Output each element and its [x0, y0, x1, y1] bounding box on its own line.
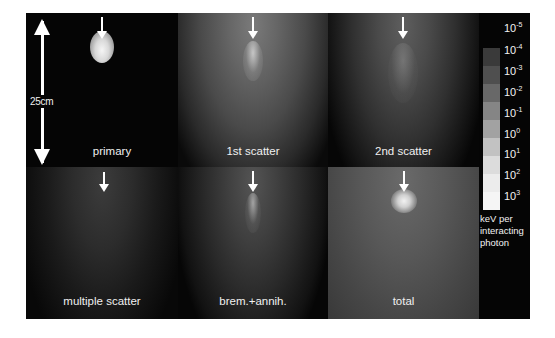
- tick-label: 10-3: [504, 64, 522, 77]
- beam-arrow-icon: [403, 171, 405, 190]
- panel-label: primary: [46, 145, 178, 157]
- panel-label: brem.+annih.: [178, 295, 328, 307]
- colorbar-segment: [483, 84, 500, 102]
- colorbar-segment: [483, 102, 500, 120]
- colorbar-segment: [483, 66, 500, 84]
- total-dose-spot: [391, 189, 417, 213]
- beam-arrow-icon: [402, 17, 404, 37]
- colorbar-segment: [483, 120, 500, 138]
- colorbar: [483, 48, 500, 210]
- panel-2nd-scatter: 2nd scatter: [328, 13, 479, 167]
- tick-label: 102: [504, 168, 520, 181]
- scale-label: 25cm: [30, 95, 53, 108]
- colorbar-segment: [483, 174, 500, 192]
- panel-label: 2nd scatter: [328, 145, 479, 157]
- colorbar-segment: [483, 138, 500, 156]
- scatter-hotspot: [243, 41, 263, 81]
- tick-label: 101: [504, 147, 520, 160]
- dose-distribution-figure: 25cm primary 1st scatter 2nd scatter mul…: [26, 13, 530, 319]
- tick-label: 10-2: [504, 85, 522, 98]
- panel-brem-annih: brem.+annih.: [178, 167, 328, 319]
- panel-primary: 25cm primary: [26, 13, 178, 167]
- scatter-hotspot: [245, 193, 261, 233]
- arrow-up-icon: [34, 19, 50, 35]
- tick-label: 10-4: [504, 43, 522, 56]
- beam-arrow-icon: [252, 171, 254, 190]
- tick-label: 100: [504, 127, 520, 140]
- tick-label: 10-1: [504, 106, 522, 119]
- panel-1st-scatter: 1st scatter: [178, 13, 328, 167]
- colorbar-segment: [483, 156, 500, 174]
- beam-arrow-icon: [101, 17, 103, 37]
- panel-label: 1st scatter: [178, 145, 328, 157]
- panel-label: multiple scatter: [26, 295, 178, 307]
- scatter-hotspot: [388, 43, 418, 103]
- colorbar-legend: 10-5 10-4 10-3 10-2 10-1 100 101 102 103…: [479, 13, 530, 319]
- tick-label: 103: [504, 189, 520, 202]
- beam-arrow-icon: [103, 172, 105, 190]
- scale-double-arrow-icon: [41, 21, 44, 163]
- beam-arrow-icon: [252, 17, 254, 37]
- panel-label: total: [328, 295, 479, 307]
- panel-total: total: [328, 167, 479, 319]
- colorbar-segment: [483, 192, 500, 210]
- tick-label: 10-5: [504, 21, 522, 34]
- panel-multiple-scatter: multiple scatter: [26, 167, 178, 319]
- colorbar-segment: [483, 48, 500, 66]
- colorbar-caption: keV per interacting photon: [480, 213, 530, 249]
